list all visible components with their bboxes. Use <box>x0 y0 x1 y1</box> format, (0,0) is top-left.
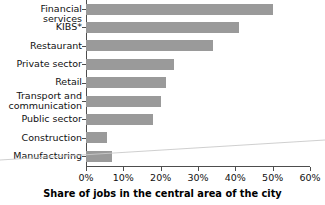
x-axis-tick-label: 40% <box>215 172 255 183</box>
bar <box>86 151 112 162</box>
x-axis-tick-label: 30% <box>178 172 218 183</box>
category-label: Construction <box>0 133 82 144</box>
y-axis-tick <box>82 64 86 65</box>
x-axis-tick <box>198 167 199 171</box>
y-axis-tick <box>82 101 86 102</box>
bar <box>86 40 213 51</box>
category-label: Restaurant <box>0 41 82 52</box>
category-label: Retail <box>0 77 82 88</box>
bar <box>86 77 166 88</box>
category-label: KIBS* <box>0 22 82 33</box>
bar <box>86 4 273 15</box>
y-axis-tick <box>82 27 86 28</box>
x-axis-tick-label: 20% <box>141 172 181 183</box>
bar-chart: Financial servicesKIBS*RestaurantPrivate… <box>0 0 325 205</box>
y-axis-tick <box>82 9 86 10</box>
x-axis-tick-label: 60% <box>290 172 325 183</box>
y-axis-tick <box>82 83 86 84</box>
x-axis-tick <box>123 167 124 171</box>
bar <box>86 96 161 107</box>
category-label: Public sector <box>0 114 82 125</box>
x-axis-tick <box>235 167 236 171</box>
x-axis-tick <box>86 167 87 171</box>
x-axis-tick-label: 0% <box>66 172 106 183</box>
category-label: Transport and communication <box>0 91 82 112</box>
y-axis-tick <box>82 119 86 120</box>
x-axis-title: Share of jobs in the central area of the… <box>0 188 325 199</box>
y-axis-tick <box>82 46 86 47</box>
bar <box>86 22 239 33</box>
category-label: Private sector <box>0 59 82 70</box>
bar <box>86 59 174 70</box>
category-label: Manufacturing <box>0 151 82 162</box>
y-axis-tick <box>82 138 86 139</box>
x-axis-tick <box>161 167 162 171</box>
bar <box>86 132 107 143</box>
x-axis-tick-label: 10% <box>103 172 143 183</box>
x-axis-tick <box>273 167 274 171</box>
bar <box>86 114 153 125</box>
x-axis-tick-label: 50% <box>253 172 293 183</box>
y-axis-tick <box>82 156 86 157</box>
x-axis-tick <box>310 167 311 171</box>
